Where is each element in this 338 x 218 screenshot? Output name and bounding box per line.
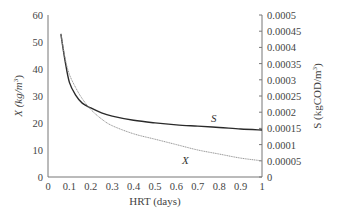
x-tick-label: 0.2: [84, 181, 97, 192]
y-left-title-close: ): [12, 75, 25, 79]
y-left-axis-title: X (kg/m3): [12, 75, 25, 118]
y-right-tick-label: 0.00045: [267, 26, 301, 37]
x-tick-label: 0.7: [191, 181, 204, 192]
series-x-curve: [61, 34, 262, 161]
x-tick-label: 0.6: [170, 181, 183, 192]
y-left-tick-label: 60: [33, 10, 44, 21]
x-tick-label: 0.1: [63, 181, 76, 192]
y-left-tick-label: 10: [33, 145, 44, 156]
s-curve-label: S: [211, 112, 217, 124]
x-tick-label: 0.9: [234, 181, 247, 192]
x-axis-title: HRT (days): [129, 195, 181, 208]
y-right-tick-label: 0.00025: [267, 91, 301, 102]
y-right-tick-label: 0.00015: [267, 123, 301, 134]
axes: 00.10.20.30.40.50.60.70.80.9101020304050…: [33, 10, 302, 192]
y-right-tick-label: 0.00035: [267, 59, 301, 70]
y-right-tick-label: 0.00005: [267, 156, 301, 167]
y-left-title-text: X (kg/m: [12, 82, 25, 118]
y-right-axis-title: S (kgCOD/m3): [311, 63, 324, 129]
x-tick-label: 0: [45, 181, 50, 192]
y-right-tick-label: 0: [267, 172, 272, 183]
y-left-tick-label: 50: [33, 37, 44, 48]
y-right-tick-label: 0.0005: [267, 10, 296, 21]
x-tick-label: 0.5: [148, 181, 161, 192]
y-right-tick-label: 0.0003: [267, 75, 296, 86]
chart: 00.10.20.30.40.50.60.70.80.9101020304050…: [0, 0, 338, 218]
y-right-tick-label: 0.0004: [267, 42, 297, 53]
x-tick-label: 1: [259, 181, 264, 192]
y-right-title-close: ): [311, 63, 324, 67]
curves: [61, 34, 262, 161]
y-right-tick-label: 0.0001: [267, 140, 296, 151]
y-left-tick-label: 30: [33, 91, 44, 102]
y-left-tick-label: 20: [33, 118, 44, 129]
x-tick-label: 0.8: [213, 181, 226, 192]
y-left-tick-label: 0: [38, 172, 43, 183]
x-tick-label: 0.3: [106, 181, 119, 192]
x-curve-label: X: [181, 154, 190, 166]
y-right-title-text: S (kgCOD/m: [311, 70, 324, 129]
series-s-curve: [61, 34, 262, 130]
y-left-tick-label: 40: [33, 64, 44, 75]
x-tick-label: 0.4: [127, 181, 141, 192]
y-right-tick-label: 0.0002: [267, 107, 296, 118]
